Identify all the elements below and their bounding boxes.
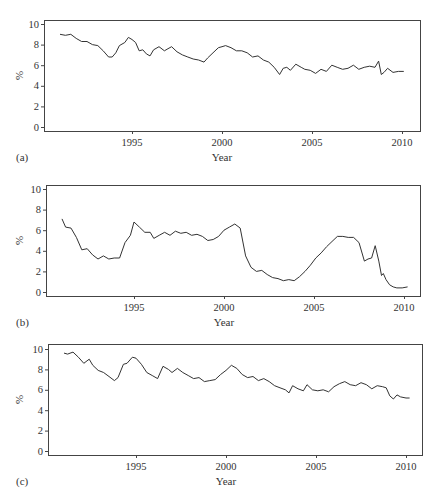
chart-panel-c: 0246810 1995200020052010 % Year (c) xyxy=(13,344,423,489)
x-tick-label: 2010 xyxy=(396,461,417,472)
y-tick-label: 10 xyxy=(31,184,42,195)
y-tick-label: 10 xyxy=(29,19,40,30)
y-tick-label: 0 xyxy=(34,122,39,133)
x-axis-label: Year xyxy=(216,475,237,487)
x-axis-label: Year xyxy=(214,316,235,328)
y-tick-label: 6 xyxy=(34,60,39,71)
data-line xyxy=(62,219,408,288)
y-tick-label: 2 xyxy=(38,425,43,436)
x-tick-label: 1995 xyxy=(124,302,145,313)
x-tick-label: 1995 xyxy=(122,137,143,148)
y-tick-label: 0 xyxy=(38,446,43,457)
y-axis-ticks: 0246810 xyxy=(29,19,45,133)
chart-panel-b: 0246810 1995200020052010 % Year (b) xyxy=(13,184,421,330)
y-tick-label: 4 xyxy=(36,245,42,256)
x-tick-label: 2005 xyxy=(306,461,327,472)
x-axis-ticks: 1995200020052010 xyxy=(122,131,413,148)
x-axis-label: Year xyxy=(212,151,233,163)
x-tick-label: 2000 xyxy=(216,461,237,472)
y-tick-label: 6 xyxy=(36,225,41,236)
chart-panel-a: 0246810 1995200020052010 % Year (a) xyxy=(13,19,421,165)
y-tick-label: 0 xyxy=(36,287,41,298)
y-tick-label: 2 xyxy=(34,101,39,112)
plot-frame xyxy=(47,186,421,297)
y-tick-label: 6 xyxy=(38,384,43,395)
plot-frame xyxy=(49,345,423,456)
y-tick-label: 4 xyxy=(34,80,40,91)
x-tick-label: 2010 xyxy=(392,137,413,148)
y-axis-label: % xyxy=(13,71,25,80)
y-tick-label: 2 xyxy=(36,266,41,277)
data-line xyxy=(64,352,410,399)
plot-frame xyxy=(45,21,421,132)
y-axis-label: % xyxy=(13,236,25,245)
x-tick-label: 2000 xyxy=(214,302,235,313)
y-axis-ticks: 0246810 xyxy=(33,344,49,457)
y-tick-label: 8 xyxy=(36,204,41,215)
data-line xyxy=(60,34,404,74)
panel-label: (b) xyxy=(16,316,29,329)
panel-label: (c) xyxy=(16,475,29,488)
y-axis-ticks: 0246810 xyxy=(31,184,47,298)
x-tick-label: 1995 xyxy=(126,461,147,472)
x-tick-label: 2005 xyxy=(304,302,325,313)
figure: 0246810 1995200020052010 % Year (a) 0246… xyxy=(0,0,435,500)
x-axis-ticks: 1995200020052010 xyxy=(126,455,417,472)
y-tick-label: 4 xyxy=(38,405,44,416)
y-axis-label: % xyxy=(13,395,25,404)
x-tick-label: 2005 xyxy=(302,137,323,148)
y-tick-label: 8 xyxy=(38,364,43,375)
x-tick-label: 2000 xyxy=(212,137,233,148)
y-tick-label: 10 xyxy=(33,344,44,355)
y-tick-label: 8 xyxy=(34,39,39,50)
x-tick-label: 2010 xyxy=(394,302,415,313)
x-axis-ticks: 1995200020052010 xyxy=(124,296,415,313)
panel-label: (a) xyxy=(16,151,29,164)
